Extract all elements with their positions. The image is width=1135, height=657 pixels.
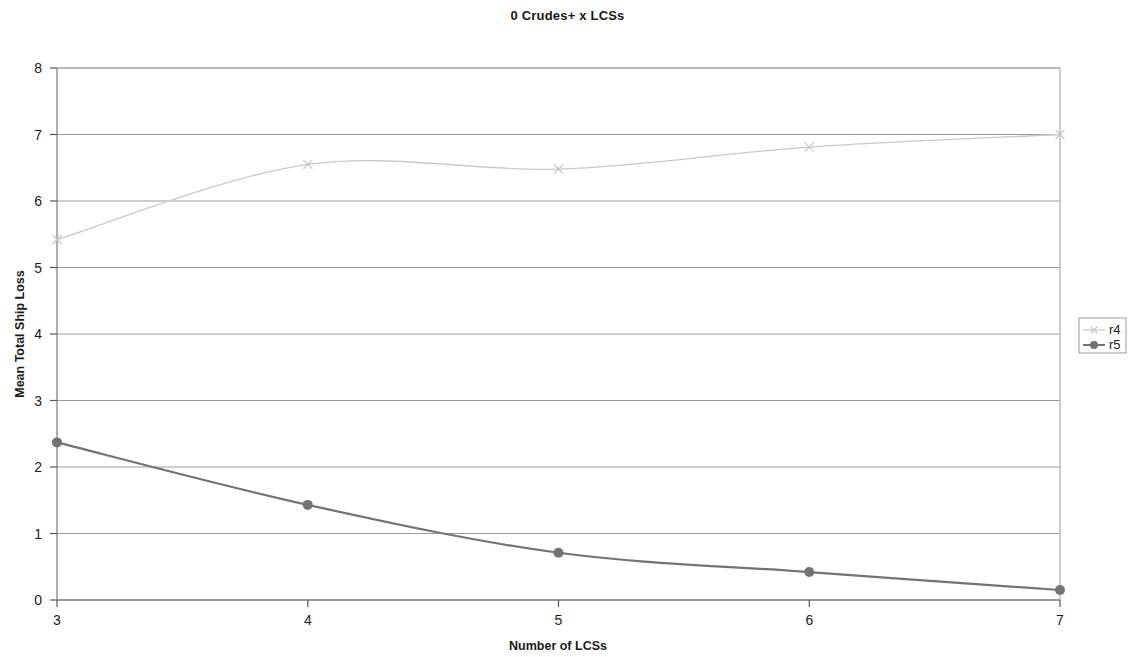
data-point-r5-6[interactable] [804,567,814,577]
y-tick-3: 3 [34,393,42,409]
chart-legend: r4 r5 [1079,318,1126,353]
chart-plot-area: 8 7 6 5 4 3 2 1 0 3 4 5 6 7 Mean Total S… [0,0,1135,657]
data-point-r5-5[interactable] [554,548,564,558]
x-tick-3: 3 [53,612,61,628]
x-axis-title: Number of LCSs [509,639,607,653]
data-point-r5-3[interactable] [52,437,62,447]
x-tick-4: 4 [304,612,312,628]
x-tick-5: 5 [555,612,563,628]
y-tick-0: 0 [34,592,42,608]
y-tick-1: 1 [34,526,42,542]
legend-label-r4: r4 [1109,322,1121,337]
legend-marker-circle-icon [1090,341,1098,349]
series-r4 [53,130,1065,244]
chart-container: 0 Crudes+ x LCSs [0,0,1135,657]
y-tick-2: 2 [34,459,42,475]
x-axis-tick-labels: 3 4 5 6 7 [53,612,1064,628]
y-tick-5: 5 [34,260,42,276]
y-tick-8: 8 [34,60,42,76]
series-r5 [52,437,1065,595]
y-tick-7: 7 [34,127,42,143]
x-tick-6: 6 [805,612,813,628]
data-series-layer [52,130,1065,595]
series-line-r4 [57,135,1060,240]
x-axis-ticks [57,600,1060,607]
series-line-r5 [57,442,1060,590]
legend-label-r5: r5 [1109,337,1121,352]
y-tick-6: 6 [34,193,42,209]
gridlines [57,68,1060,600]
data-point-r5-7[interactable] [1055,585,1065,595]
y-axis-tick-labels: 8 7 6 5 4 3 2 1 0 [34,60,42,608]
data-point-r5-4[interactable] [303,500,313,510]
x-tick-7: 7 [1056,612,1064,628]
y-tick-4: 4 [34,326,42,342]
y-axis-ticks [50,68,57,600]
y-axis-title: Mean Total Ship Loss [13,270,27,398]
